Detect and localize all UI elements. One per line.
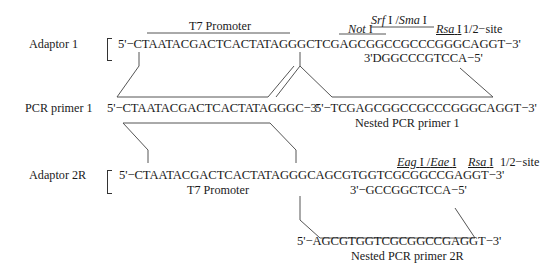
srf-roman: I / bbox=[388, 13, 399, 27]
half-site-label-adaptor1: 1/2−site bbox=[463, 22, 502, 36]
nested-primer2r-label: Nested PCR primer 2R bbox=[351, 249, 464, 263]
sma-roman: I bbox=[423, 13, 427, 27]
adaptor1-top-strand: 5'−CTAATACGACTCACTATAGGGCTCGAGCGGCCGCCCG… bbox=[118, 37, 521, 51]
adaptor1-bottom-strand: 3'DGGCCCGTCCA−5' bbox=[364, 51, 483, 65]
rsa-name-2r: Rsa bbox=[468, 155, 486, 169]
nested1-left-connector bbox=[276, 52, 300, 97]
rsa-roman: I bbox=[457, 22, 461, 36]
rsa1-label-adaptor1: Rsa I bbox=[436, 22, 461, 36]
adaptor2r-left-connector bbox=[123, 123, 148, 163]
eag-name: Eag bbox=[397, 155, 417, 169]
nested2r-connector bbox=[300, 196, 475, 238]
eag-roman: I / bbox=[420, 155, 431, 169]
half-site-label-adaptor2r: 1/2−site bbox=[500, 155, 539, 169]
rsa-name: Rsa bbox=[436, 22, 454, 36]
not-name: Not bbox=[348, 22, 366, 36]
adaptor2r-top-strand: 5'−CTAATACGACTCACTATAGGGCAGCGTGGTCGCGGCC… bbox=[119, 168, 504, 182]
adaptor1-label: Adaptor 1 bbox=[29, 37, 78, 51]
nested-primer1-label: Nested PCR primer 1 bbox=[355, 116, 460, 130]
adaptor2r-t7-label: T7 Promoter bbox=[187, 183, 249, 197]
eae-name: Eae bbox=[430, 155, 449, 169]
srf-sma-label: Srf I /Sma I bbox=[371, 13, 427, 27]
adaptor2r-right-connector bbox=[270, 123, 296, 163]
pcr-primer1-sequence: 5'−CTAATACGACTCACTATAGGGC−3' bbox=[107, 101, 319, 115]
nested1-right-connector bbox=[300, 66, 493, 97]
rsa-roman-2r: I bbox=[489, 155, 493, 169]
srf-name: Srf bbox=[371, 13, 385, 27]
pcr-primer1-connector bbox=[117, 52, 294, 97]
eag-eae-label: Eag I /Eae I bbox=[397, 155, 456, 169]
eae-roman: I bbox=[452, 155, 456, 169]
adaptor1-t7-label: T7 Promoter bbox=[189, 19, 251, 33]
rsa1-label-adaptor2r: Rsa I bbox=[468, 155, 493, 169]
adaptor1-bracket bbox=[107, 38, 112, 61]
adaptor2r-bracket bbox=[107, 170, 112, 194]
not1-label: Not I bbox=[348, 22, 373, 36]
sma-name: Sma bbox=[399, 13, 420, 27]
nested-primer2r-sequence: 5'−AGCGTGGTCGCGGCCGAGGT−3' bbox=[297, 234, 501, 248]
adaptor2r-label: Adaptor 2R bbox=[29, 168, 86, 182]
not-roman: I bbox=[369, 22, 373, 36]
pcr-primer1-label: PCR primer 1 bbox=[25, 101, 93, 115]
nested-primer1-sequence: 5'−TCGAGCGGCCGCCCGGGCAGGT−3' bbox=[315, 101, 537, 115]
adaptor2r-bottom-strand: 3'−GCCGGCTCCA−5' bbox=[350, 183, 467, 197]
